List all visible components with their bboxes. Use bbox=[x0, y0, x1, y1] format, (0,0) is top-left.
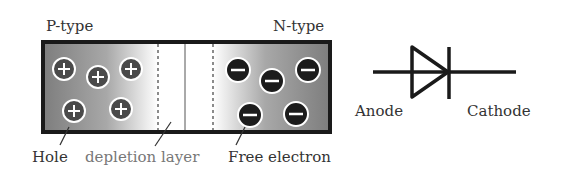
n-type-label: N-type bbox=[273, 19, 324, 34]
free-electron-label: Free electron bbox=[228, 150, 331, 165]
anode-label: Anode bbox=[355, 104, 403, 119]
hole-icon bbox=[53, 58, 75, 80]
electron-icon bbox=[296, 58, 320, 82]
hole-icon bbox=[63, 100, 85, 122]
electron-icon bbox=[226, 58, 250, 82]
hole-icon bbox=[87, 66, 109, 88]
hole-icon bbox=[110, 98, 132, 120]
p-type-label: P-type bbox=[46, 19, 93, 34]
diode-symbol-icon bbox=[373, 47, 516, 99]
hole-label: Hole bbox=[32, 150, 68, 165]
depletion-layer-label: depletion layer bbox=[85, 150, 199, 165]
hole-icon bbox=[120, 58, 142, 80]
electron-icon bbox=[260, 69, 284, 93]
cathode-label: Cathode bbox=[467, 104, 531, 119]
electron-icon bbox=[238, 103, 262, 127]
electron-icon bbox=[284, 102, 308, 126]
